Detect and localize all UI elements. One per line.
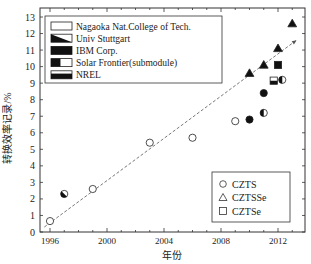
circle-marker xyxy=(246,116,253,123)
y-tick-label: 6 xyxy=(30,127,35,138)
circle-icon xyxy=(220,181,227,188)
scatter-plot: 19962000200420082012012345678910111213 N… xyxy=(0,0,311,264)
data-point-czts xyxy=(189,134,196,141)
legend-entry: IBM Corp. xyxy=(51,46,118,56)
legend-label: CZTSe xyxy=(232,206,261,217)
x-tick-label: 2004 xyxy=(155,236,174,246)
x-tick-label: 1996 xyxy=(41,236,60,246)
legend-swatch-fill xyxy=(51,59,60,67)
institution-legend: Nagaoka Nat.College of Tech.Univ Stuttga… xyxy=(45,16,222,83)
legend-label: Nagaoka Nat.College of Tech. xyxy=(76,22,191,32)
material-legend: CZTSCZTSSeCZTSe xyxy=(212,172,290,222)
square-marker xyxy=(274,61,281,68)
legend-label: IBM Corp. xyxy=(76,46,118,56)
x-axis-label: 年份 xyxy=(162,249,182,261)
triangle-marker xyxy=(274,44,283,52)
y-tick-label: 10 xyxy=(25,61,35,72)
y-tick-label: 0 xyxy=(30,227,35,238)
y-tick-label: 7 xyxy=(30,111,35,122)
data-point-czts xyxy=(46,217,53,224)
data-point-cztsse xyxy=(245,69,254,77)
legend-entry: Univ Stuttgart xyxy=(51,34,130,44)
data-point-cztsse xyxy=(288,19,297,27)
data-point-cztsse xyxy=(274,44,283,52)
y-tick-label: 8 xyxy=(30,94,35,105)
legend-label: CZTS xyxy=(232,179,256,190)
x-tick-label: 2012 xyxy=(269,236,287,246)
data-point-czts xyxy=(232,118,239,125)
data-point-czts xyxy=(89,185,96,192)
legend-label: Univ Stuttgart xyxy=(76,34,130,44)
trend-arrowhead xyxy=(292,40,297,44)
data-point-czts xyxy=(61,190,68,197)
legend-entry: Nagaoka Nat.College of Tech. xyxy=(51,22,191,32)
y-tick-label: 11 xyxy=(25,45,35,56)
data-point-czts xyxy=(146,139,153,146)
triangle-marker xyxy=(245,69,254,77)
data-point-czts xyxy=(260,89,267,96)
data-point-cztse xyxy=(274,61,281,68)
circle-marker xyxy=(89,185,96,192)
data-point-czts xyxy=(260,109,267,116)
data-point-czts xyxy=(246,116,253,123)
efficiency-record-chart: 19962000200420082012012345678910111213 N… xyxy=(0,0,311,264)
circle-marker xyxy=(260,89,267,96)
legend-label: Solar Frontier(submodule) xyxy=(76,58,177,69)
legend-label: NREL xyxy=(76,70,101,80)
circle-marker xyxy=(146,139,153,146)
data-point-cztse xyxy=(270,77,277,84)
circle-marker xyxy=(46,217,53,224)
legend-swatch-fill xyxy=(51,46,72,54)
y-tick-label: 1 xyxy=(30,210,35,221)
legend-entry: NREL xyxy=(51,70,101,80)
legend-swatch xyxy=(51,22,72,30)
circle-marker xyxy=(189,134,196,141)
y-tick-label: 9 xyxy=(30,78,35,89)
legend-entry: CZTSe xyxy=(220,206,262,217)
data-point-czts xyxy=(279,76,286,83)
square-icon xyxy=(220,208,227,215)
triangle-marker xyxy=(288,19,297,27)
legend-label: CZTSSe xyxy=(232,192,267,203)
y-tick-label: 2 xyxy=(30,193,35,204)
y-axis-label: 转换效率记录/% xyxy=(1,92,13,163)
x-tick-label: 2008 xyxy=(212,236,231,246)
x-tick-label: 2000 xyxy=(98,236,117,246)
y-tick-label: 12 xyxy=(25,28,35,39)
y-tick-label: 13 xyxy=(25,12,35,23)
y-tick-label: 3 xyxy=(30,177,35,188)
y-tick-label: 4 xyxy=(30,160,35,171)
y-tick-label: 5 xyxy=(30,144,35,155)
legend-swatch-fill xyxy=(51,74,72,79)
circle-marker xyxy=(232,118,239,125)
